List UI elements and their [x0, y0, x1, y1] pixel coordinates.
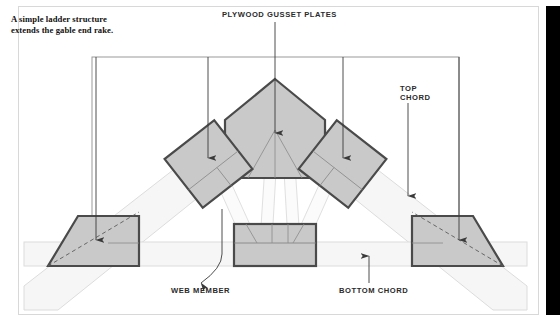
gusset-plates [48, 79, 503, 266]
figure-canvas: A simple ladder structure extends the ga… [0, 0, 560, 325]
label-bottom-chord: BOTTOM CHORD [339, 286, 408, 295]
plate-center-bottom-gusset [234, 224, 316, 266]
label-top-chord: TOP CHORD [400, 84, 431, 102]
plate-right-heel-gusset [412, 212, 503, 266]
label-web-member: WEB MEMBER [171, 286, 230, 295]
plate-left-heel-gusset [48, 212, 139, 266]
label-plywood-gusset-plates: PLYWOOD GUSSET PLATES [222, 10, 337, 19]
truss-drawing [0, 0, 560, 325]
